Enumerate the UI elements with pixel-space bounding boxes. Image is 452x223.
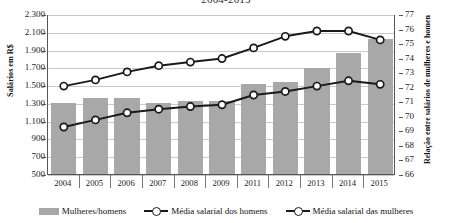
left-tick-label: 1.700 [5,63,45,72]
right-tick-label: 77 [405,10,435,19]
right-tick-mark [399,30,403,31]
legend-label: Média salarial dos homens [171,206,267,216]
left-tick-mark [42,68,46,69]
left-tick-mark [42,33,46,34]
data-point-marker [123,68,130,75]
legend-line-marker-icon [286,207,310,216]
left-tick-label: 1.500 [5,81,45,90]
x-tick-label: 2012 [268,178,300,188]
legend-label: Mulheres/homens [62,206,127,216]
x-tick-separator [300,175,301,188]
right-tick-mark [399,117,403,118]
x-tick-label: 2014 [332,178,364,188]
data-point-marker [250,44,257,51]
left-tick-label: 1.900 [5,46,45,55]
data-point-marker [377,81,384,88]
right-tick-mark [399,160,403,161]
left-tick-mark [42,139,46,140]
legend-circle-icon [294,207,303,216]
plot-area [47,15,395,175]
right-tick-label: 75 [405,39,435,48]
x-tick-label: 2007 [142,178,174,188]
right-tick-mark [399,88,403,89]
right-tick-label: 71 [405,97,435,106]
data-point-marker [282,33,289,40]
x-tick-label: 2011 [237,178,269,188]
data-point-marker [60,123,67,130]
right-tick-label: 72 [405,83,435,92]
data-point-marker [313,83,320,90]
legend-line-marker-icon [144,207,168,216]
left-tick-label: 1.100 [5,117,45,126]
x-tick-label: 2013 [300,178,332,188]
right-tick-label: 73 [405,68,435,77]
chart-legend: Mulheres/homensMédia salarial dos homens… [0,203,452,219]
chart-title: 2004-2015 [0,0,452,5]
left-tick-mark [42,51,46,52]
x-tick-separator [268,175,269,188]
x-tick-label: 2006 [110,178,142,188]
left-tick-mark [42,122,46,123]
right-tick-mark [399,131,403,132]
right-tick-label: 68 [405,141,435,150]
x-tick-label: 2004 [47,178,79,188]
legend-circle-icon [152,207,161,216]
legend-item[interactable]: Média salarial das mulheres [286,206,414,216]
right-tick-label: 74 [405,54,435,63]
x-tick-label: 2009 [205,178,237,188]
x-tick-separator [205,175,206,188]
chart-container: 2004-2015 Salários em R$ Relação entre s… [0,0,452,223]
left-tick-label: 2.100 [5,28,45,37]
right-tick-label: 76 [405,25,435,34]
data-point-marker [218,101,225,108]
left-tick-mark [42,175,46,176]
legend-item[interactable]: Média salarial dos homens [144,206,267,216]
x-tick-separator [110,175,111,188]
data-point-marker [155,106,162,113]
right-tick-mark [399,59,403,60]
x-tick-separator [237,175,238,188]
gridline [48,175,394,176]
data-point-marker [187,59,194,66]
x-axis-labels: 2004200520062007200820092011201220132014… [47,178,395,192]
data-point-marker [250,91,257,98]
data-point-marker [92,116,99,123]
right-tick-mark [399,102,403,103]
legend-item[interactable]: Mulheres/homens [39,206,127,216]
x-tick-label: 2008 [174,178,206,188]
left-tick-label: 500 [5,170,45,179]
left-tick-mark [42,86,46,87]
left-tick-label: 900 [5,134,45,143]
data-point-marker [123,109,130,116]
data-point-marker [313,27,320,34]
data-point-marker [155,62,162,69]
x-tick-separator [332,175,333,188]
left-axis-ticks: 2.3002.1001.9001.7001.5001.3001.10090070… [0,0,45,223]
x-tick-separator [174,175,175,188]
data-point-marker [345,27,352,34]
data-point-marker [377,36,384,43]
legend-label: Média salarial das mulheres [313,206,414,216]
left-tick-label: 700 [5,152,45,161]
right-tick-label: 67 [405,155,435,164]
x-tick-separator [363,175,364,188]
right-tick-label: 70 [405,112,435,121]
data-point-marker [60,83,67,90]
right-tick-mark [399,44,403,45]
x-tick-separator [79,175,80,188]
right-tick-mark [399,175,403,176]
x-tick-label: 2015 [363,178,395,188]
left-tick-label: 2.300 [5,10,45,19]
legend-swatch-icon [39,208,59,215]
x-tick-separator [142,175,143,188]
data-point-marker [218,55,225,62]
right-tick-label: 69 [405,126,435,135]
left-tick-mark [42,104,46,105]
data-point-marker [282,88,289,95]
data-point-marker [187,103,194,110]
left-tick-mark [42,15,46,16]
right-tick-mark [399,73,403,74]
right-tick-mark [399,15,403,16]
data-point-marker [92,76,99,83]
right-tick-mark [399,146,403,147]
